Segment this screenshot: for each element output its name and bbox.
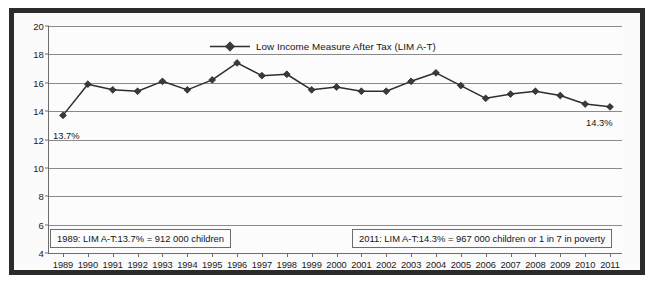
end-value-callout: 14.3%	[586, 117, 613, 128]
x-tick-mark	[585, 253, 586, 257]
x-tick-label: 2002	[376, 260, 396, 270]
y-tick-label: 4	[39, 248, 44, 259]
x-tick-mark	[535, 253, 536, 257]
x-tick-mark	[138, 253, 139, 257]
x-tick-label: 1998	[277, 260, 297, 270]
x-tick-label: 2007	[500, 260, 520, 270]
series-data-point	[184, 86, 191, 93]
x-tick-label: 1996	[227, 260, 247, 270]
x-tick-label: 2000	[326, 260, 346, 270]
x-tick-mark	[212, 253, 213, 257]
series-data-point	[607, 103, 614, 110]
series-data-point	[457, 82, 464, 89]
series-data-point	[557, 92, 564, 99]
x-tick-mark	[610, 253, 611, 257]
y-tick-label: 20	[33, 21, 44, 32]
y-tick-label: 6	[39, 219, 44, 230]
x-tick-label: 1989	[53, 260, 73, 270]
x-tick-label: 1999	[301, 260, 321, 270]
annotation-note-1989: 1989: LIM A-T:13.7% = 912 000 children	[50, 229, 231, 248]
chart-figure-frame: 201816141210864 198919901991199219931994…	[9, 8, 645, 275]
x-tick-mark	[63, 253, 64, 257]
x-tick-mark	[262, 253, 263, 257]
x-tick-label: 2001	[351, 260, 371, 270]
x-tick-label: 2009	[550, 260, 570, 270]
series-data-point	[507, 91, 514, 98]
series-data-point	[532, 88, 539, 95]
legend-marker-icon	[210, 41, 250, 52]
x-tick-label: 2010	[575, 260, 595, 270]
series-data-point	[109, 86, 116, 93]
plot-area: 201816141210864 198919901991199219931994…	[48, 26, 622, 254]
x-tick-label: 1990	[78, 260, 98, 270]
x-tick-label: 1992	[127, 260, 147, 270]
x-tick-mark	[187, 253, 188, 257]
y-tick-label: 14	[33, 106, 44, 117]
y-tick-label: 10	[33, 162, 44, 173]
x-tick-mark	[312, 253, 313, 257]
legend-label: Low Income Measure After Tax (LIM A-T)	[256, 41, 436, 52]
x-tick-mark	[411, 253, 412, 257]
x-tick-label: 1991	[103, 260, 123, 270]
series-data-point	[333, 84, 340, 91]
x-tick-label: 1994	[177, 260, 197, 270]
x-tick-mark	[486, 253, 487, 257]
start-value-callout: 13.7%	[53, 130, 80, 141]
annotation-note-1989-text: 1989: LIM A-T:13.7% = 912 000 children	[57, 233, 224, 244]
y-tick-label: 18	[33, 49, 44, 60]
x-tick-mark	[461, 253, 462, 257]
y-tick-label: 12	[33, 134, 44, 145]
chart-figure-inner: 201816141210864 198919901991199219931994…	[14, 13, 640, 270]
x-tick-mark	[337, 253, 338, 257]
x-tick-label: 1995	[202, 260, 222, 270]
x-tick-label: 2003	[401, 260, 421, 270]
series-data-point	[408, 78, 415, 85]
x-tick-mark	[88, 253, 89, 257]
x-tick-mark	[560, 253, 561, 257]
x-tick-mark	[361, 253, 362, 257]
series-data-point	[358, 88, 365, 95]
x-tick-label: 2008	[525, 260, 545, 270]
chart-legend: Low Income Measure After Tax (LIM A-T)	[210, 41, 436, 52]
x-tick-label: 1997	[252, 260, 272, 270]
annotation-note-2011-text: 2011: LIM A-T:14.3% = 967 000 children o…	[359, 233, 605, 244]
x-tick-label: 2006	[476, 260, 496, 270]
series-data-point	[134, 88, 141, 95]
series-data-point	[383, 88, 390, 95]
series-data-point	[159, 78, 166, 85]
x-tick-mark	[113, 253, 114, 257]
y-tick-label: 8	[39, 191, 44, 202]
x-tick-mark	[162, 253, 163, 257]
series-data-point	[259, 72, 266, 79]
annotation-note-2011: 2011: LIM A-T:14.3% = 967 000 children o…	[352, 229, 612, 248]
x-tick-mark	[511, 253, 512, 257]
x-tick-mark	[237, 253, 238, 257]
x-tick-mark	[287, 253, 288, 257]
x-tick-label: 2004	[426, 260, 446, 270]
series-data-point	[482, 95, 489, 102]
x-tick-label: 2005	[451, 260, 471, 270]
series-data-point	[582, 101, 589, 108]
y-tick-label: 16	[33, 77, 44, 88]
series-data-point	[433, 69, 440, 76]
x-tick-label: 2011	[600, 260, 620, 270]
x-tick-mark	[386, 253, 387, 257]
x-tick-mark	[436, 253, 437, 257]
series-plot	[49, 26, 622, 253]
x-tick-label: 1993	[152, 260, 172, 270]
